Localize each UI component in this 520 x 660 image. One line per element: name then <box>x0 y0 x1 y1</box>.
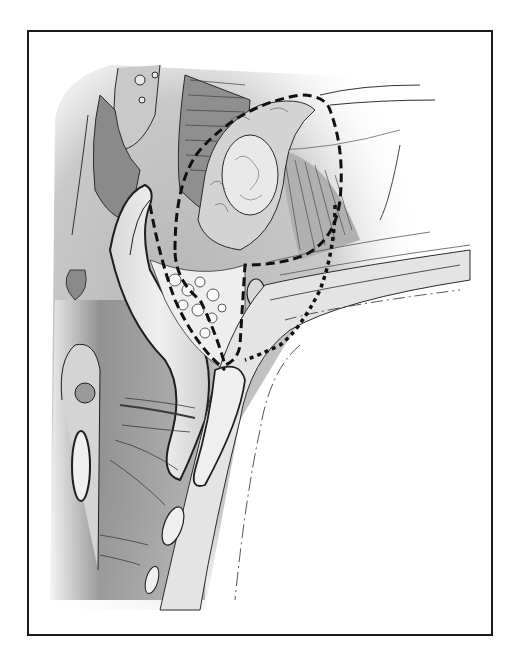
anatomical-illustration <box>0 0 520 660</box>
